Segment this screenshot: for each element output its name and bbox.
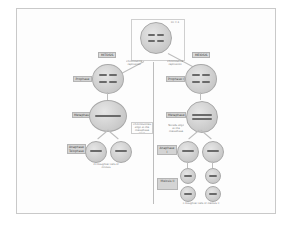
meiosis-metaphase-cell — [186, 101, 218, 133]
mitosis-daughter-cell-1 — [85, 141, 107, 163]
mitosis-heading: MITOSIS — [98, 52, 116, 58]
mitosis-daughter-cell-2 — [110, 141, 132, 163]
meiosis-i-cell-2 — [202, 141, 224, 163]
meiosis-i-cell-1 — [177, 141, 199, 163]
meiosis-ii-cell-1 — [180, 168, 196, 184]
replication-note-left: Chromosome replication — [126, 60, 142, 66]
meiosis-prophase-cell — [185, 64, 217, 94]
mitosis-prophase-cell — [92, 64, 124, 94]
parent-cell — [140, 22, 172, 54]
meiosis-arrow-2a — [187, 161, 188, 168]
parent-note: 2n = 4 — [169, 21, 181, 24]
meiosis-arrow-1 — [200, 92, 201, 100]
mitosis-metaphase-cell — [89, 100, 127, 132]
meiosis-stage-anaphase: Anaphase I Telophase I — [157, 145, 177, 155]
meiosis-ii-cell-2 — [205, 168, 221, 184]
meiosis-arrow-2b — [212, 161, 213, 168]
mitosis-stage-anaphase: Anaphase Telophase — [67, 144, 86, 154]
mitosis-metaphase-note: Chromosomes align at the metaphase plate — [131, 122, 153, 134]
meiosis-metaphase-note: Tetrads align at the metaphase plate — [168, 124, 184, 132]
meiosis-stage-prophase: Prophase I — [166, 76, 185, 82]
meiosis-stage-metaphase: Metaphase I — [166, 112, 186, 118]
meiosis-ii-cell-4 — [205, 186, 221, 202]
meiosis-heading: MEIOSIS — [192, 52, 210, 58]
mitosis-result-note: 2n Daughter cells of mitosis — [89, 163, 123, 171]
meiosis-stage-ii: Meiosis II — [157, 178, 178, 190]
mitosis-arrow-1 — [107, 92, 108, 100]
replication-note-right: Chromosome replication — [167, 60, 183, 66]
center-divider — [153, 62, 154, 204]
mitosis-stage-prophase: Prophase — [73, 76, 92, 82]
meiosis-ii-cell-3 — [180, 186, 196, 202]
meiosis-result-note: n Daughter cells of meiosis II — [178, 202, 224, 208]
